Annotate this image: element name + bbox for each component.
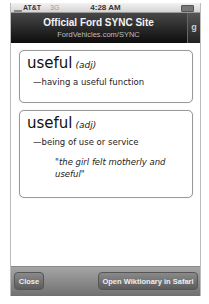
- part-of-speech: (adj): [76, 120, 97, 130]
- bottom-toolbar: Close Open Wiktionary in Safari: [11, 266, 200, 296]
- example-sentence: "the girl felt motherly and useful": [55, 156, 184, 180]
- phone-screen: AT&T 3G 4:28 AM Official Ford SYNC Site …: [10, 3, 201, 296]
- definition-text: —being of use or service: [33, 137, 138, 147]
- close-button[interactable]: Close: [14, 272, 44, 290]
- definition-text: —having a useful function: [33, 77, 144, 87]
- definition-card: useful(adj) —being of use or service "th…: [19, 110, 193, 198]
- definition-card: useful(adj) —having a useful function: [19, 50, 193, 103]
- status-bar: AT&T 3G 4:28 AM: [11, 3, 200, 13]
- banner-title[interactable]: Official Ford SYNC Site: [11, 17, 186, 28]
- definition-word: useful(adj): [27, 54, 96, 72]
- banner-url[interactable]: FordVehicles.com/SYNC: [11, 30, 186, 39]
- part-of-speech: (adj): [76, 60, 97, 70]
- definition-word: useful(adj): [27, 114, 96, 132]
- side-tab-icon[interactable]: g: [187, 13, 200, 43]
- ad-banner[interactable]: Official Ford SYNC Site FordVehicles.com…: [11, 13, 200, 43]
- clock: 4:28 AM: [11, 3, 200, 12]
- open-in-safari-button[interactable]: Open Wiktionary in Safari: [98, 272, 198, 290]
- battery-icon: [181, 5, 194, 12]
- definitions-content: useful(adj) —having a useful function us…: [11, 43, 200, 284]
- word-text: useful: [27, 54, 73, 72]
- word-text: useful: [27, 114, 73, 132]
